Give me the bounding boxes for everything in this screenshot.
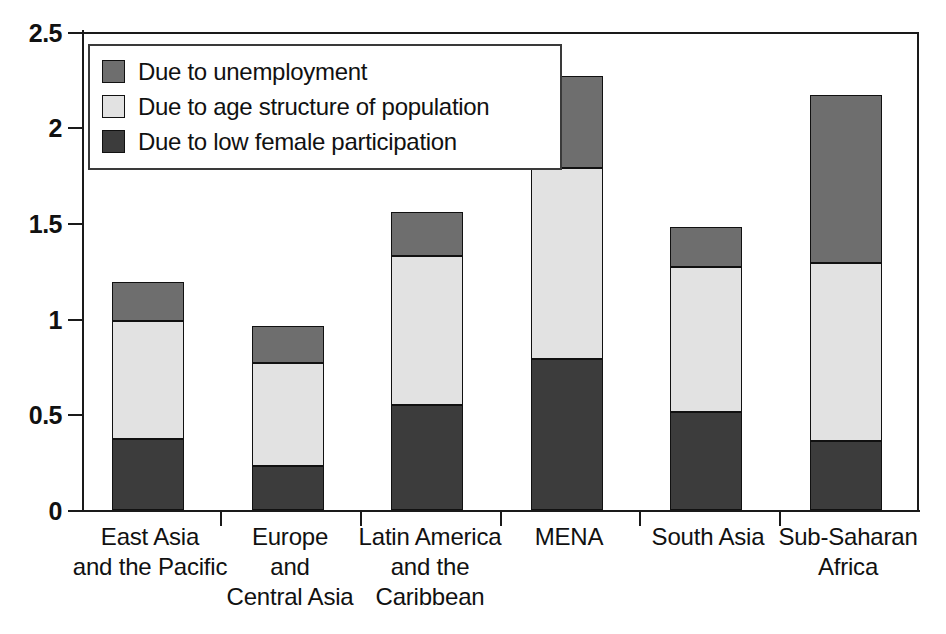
legend-label-female-participation: Due to low female participation <box>138 129 457 155</box>
legend-item-age-structure[interactable]: Due to age structure of population <box>102 89 550 124</box>
bar-segment-female-participation[interactable] <box>391 405 463 510</box>
y-tick-label-2.5: 2.5 <box>2 19 62 48</box>
y-tick-mark-0.5 <box>68 414 82 416</box>
legend-item-unemployment[interactable]: Due to unemployment <box>102 54 550 89</box>
category-label-line: and the <box>335 552 525 582</box>
plot-top-border <box>82 32 918 34</box>
category-label-line: Africa <box>753 552 943 582</box>
bar-segment-female-participation[interactable] <box>252 466 324 510</box>
category-label-line: Caribbean <box>335 582 525 612</box>
y-tick-mark-0 <box>68 510 82 512</box>
bar-segment-female-participation[interactable] <box>531 359 603 510</box>
bar-segment-age-structure[interactable] <box>391 256 463 405</box>
bar-segment-female-participation[interactable] <box>670 412 742 510</box>
chart-figure: 2.5 2 1.5 1 0.5 0 East Asiaand the Pacif… <box>0 0 946 634</box>
bar-segment-female-participation[interactable] <box>810 441 882 510</box>
y-tick-label-2: 2 <box>2 114 62 143</box>
bar-segment-age-structure[interactable] <box>670 267 742 412</box>
bar-segment-unemployment[interactable] <box>112 282 184 320</box>
plot-right-border <box>917 32 919 510</box>
bar-segment-female-participation[interactable] <box>112 439 184 510</box>
legend-swatch-age-structure <box>102 95 125 118</box>
chart-legend: Due to unemployment Due to age structure… <box>88 44 562 170</box>
bar-segment-age-structure[interactable] <box>112 321 184 440</box>
category-label-line: Sub-Saharan <box>753 522 943 552</box>
y-tick-label-0: 0 <box>2 497 62 526</box>
y-tick-label-1: 1 <box>2 306 62 335</box>
legend-label-unemployment: Due to unemployment <box>138 59 367 85</box>
x-axis-category-label-6: Sub-SaharanAfrica <box>753 522 943 582</box>
y-tick-label-1.5: 1.5 <box>2 210 62 239</box>
y-tick-mark-1 <box>68 319 82 321</box>
bar-segment-unemployment[interactable] <box>810 95 882 263</box>
y-tick-mark-2 <box>68 127 82 129</box>
bar-segment-age-structure[interactable] <box>531 168 603 359</box>
bar-segment-age-structure[interactable] <box>252 363 324 466</box>
y-tick-label-0.5: 0.5 <box>2 401 62 430</box>
bar-segment-unemployment[interactable] <box>252 326 324 362</box>
legend-item-female-participation[interactable]: Due to low female participation <box>102 124 550 159</box>
y-axis-line <box>82 30 84 512</box>
bar-segment-unemployment[interactable] <box>391 212 463 256</box>
y-tick-mark-2.5 <box>68 32 82 34</box>
legend-label-age-structure: Due to age structure of population <box>138 94 489 120</box>
legend-swatch-unemployment <box>102 60 125 83</box>
bar-segment-unemployment[interactable] <box>670 227 742 267</box>
legend-swatch-female-participation <box>102 130 125 153</box>
bar-segment-age-structure[interactable] <box>810 263 882 441</box>
caption-fragment <box>8 619 938 634</box>
y-tick-mark-1.5 <box>68 223 82 225</box>
